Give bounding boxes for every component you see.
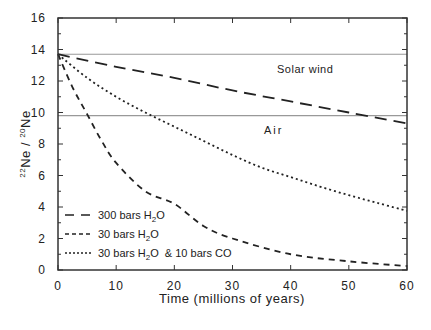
legend-label: 30 bars H2O & 10 bars CO — [98, 247, 232, 262]
legend-label: 30 bars H2O — [98, 228, 159, 243]
solar-wind-label: Solar wind — [277, 63, 333, 75]
legend: 300 bars H2O30 bars H2O30 bars H2O & 10 … — [65, 209, 232, 262]
x-axis-title: Time (millions of years) — [159, 291, 305, 306]
reference-lines — [58, 54, 407, 115]
series-line — [58, 54, 407, 123]
y-tick-label: 4 — [38, 200, 46, 214]
y-sup-2: 20 — [18, 128, 27, 138]
y-tick-label: 12 — [31, 74, 46, 88]
y-tick-label: 14 — [31, 43, 46, 57]
x-tick-label: 60 — [399, 279, 414, 293]
air-label: Air — [264, 124, 283, 136]
x-tick-label: 50 — [341, 279, 356, 293]
annotations: Solar wind Air — [264, 63, 333, 136]
y-sup-1: 22 — [18, 168, 27, 178]
y-axis-title: 22Ne / 20Ne — [18, 110, 33, 177]
legend-label: 300 bars H2O — [98, 209, 165, 224]
y-tick-label: 16 — [31, 11, 46, 25]
y-tick-label: 0 — [38, 263, 46, 277]
series-line — [58, 54, 407, 211]
y-tick-label: 2 — [38, 232, 46, 246]
y-tick-label: 8 — [38, 137, 46, 151]
chart: 01020304050600246810121416 Solar wind Ai… — [0, 0, 431, 330]
x-tick-label: 10 — [108, 279, 123, 293]
svg-text:22Ne / 20Ne: 22Ne / 20Ne — [18, 110, 33, 177]
y-base-1: Ne / — [18, 138, 33, 168]
y-tick-label: 6 — [38, 169, 46, 183]
y-base-2: Ne — [18, 110, 33, 128]
x-tick-label: 0 — [54, 279, 62, 293]
